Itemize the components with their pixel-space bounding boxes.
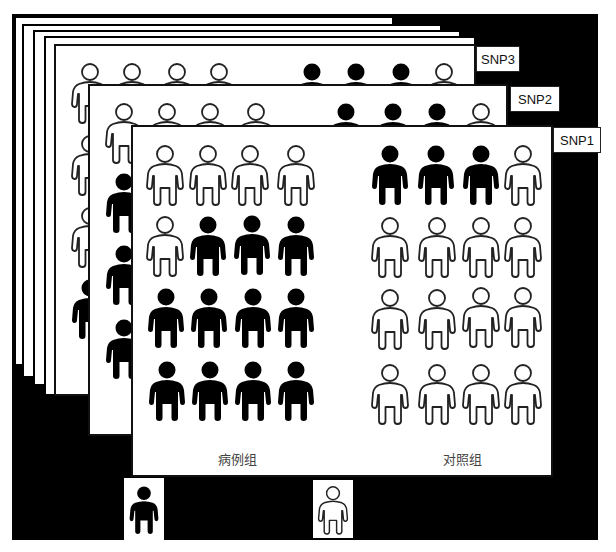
person-outline-icon (188, 144, 228, 206)
snp1-panel: 病例组 对照组 (131, 125, 553, 477)
person-filled-icon (370, 144, 410, 206)
person-filled-icon (416, 144, 456, 206)
person-outline-icon (145, 215, 185, 277)
control-group-label: 对照组 (443, 449, 482, 468)
person-filled-icon (146, 287, 186, 349)
person-outline-icon (145, 144, 185, 206)
person-outline-icon (461, 216, 501, 278)
person-filled-icon (276, 287, 316, 349)
legend-filled (124, 478, 164, 540)
person-outline-icon (370, 288, 410, 350)
person-filled-icon (188, 215, 228, 277)
person-outline-icon (417, 216, 457, 278)
person-outline-icon (417, 288, 457, 350)
person-filled-icon (276, 360, 316, 422)
person-outline-icon (461, 286, 501, 348)
snp3-label: SNP3 (476, 46, 520, 72)
person-outline-icon (230, 144, 270, 206)
snp2-label: SNP2 (510, 86, 560, 112)
person-filled-icon (276, 215, 316, 277)
person-filled-icon (190, 360, 230, 422)
person-outline-icon (370, 216, 410, 278)
person-filled-icon (461, 144, 501, 206)
person-outline-icon (503, 216, 543, 278)
case-group-label: 病例组 (218, 449, 257, 468)
person-outline-icon (461, 363, 501, 425)
person-outline-icon (503, 144, 543, 206)
person-filled-icon (233, 360, 273, 422)
person-outline-icon (503, 286, 543, 348)
person-outline-icon (317, 484, 349, 536)
person-filled-icon (232, 214, 272, 276)
person-filled-icon (233, 287, 273, 349)
person-filled-icon (189, 287, 229, 349)
person-filled-icon (147, 360, 187, 422)
person-outline-icon (417, 363, 457, 425)
person-filled-icon (128, 484, 160, 536)
snp1-label: SNP1 (553, 127, 601, 153)
person-outline-icon (276, 144, 316, 206)
legend-outline (313, 480, 353, 538)
person-outline-icon (370, 363, 410, 425)
person-outline-icon (503, 363, 543, 425)
